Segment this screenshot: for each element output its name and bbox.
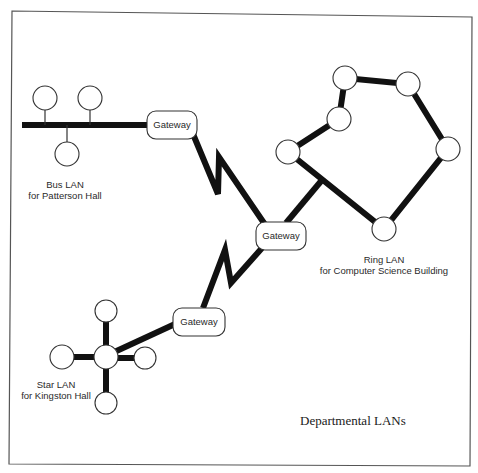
star-lan-label: Star LAN <box>37 379 76 390</box>
gateway-star-label: Gateway <box>180 316 218 327</box>
bus-node-1[interactable] <box>33 86 57 110</box>
ring-node-1[interactable] <box>333 66 357 90</box>
ring-node-5[interactable] <box>436 137 460 161</box>
bus-node-2[interactable] <box>78 86 102 110</box>
ring-node-6[interactable] <box>372 217 396 241</box>
star-node-bottom[interactable] <box>95 392 117 414</box>
gateway-bus-label: Gateway <box>153 119 191 130</box>
star-lan-sublabel: for Kingston Hall <box>21 390 91 401</box>
ring-node-2[interactable] <box>396 72 420 96</box>
bus-node-3[interactable] <box>55 142 79 166</box>
bus-lan-label: Bus LAN <box>46 179 84 190</box>
star-node-left[interactable] <box>50 345 74 369</box>
gateway-star[interactable]: Gateway <box>173 308 225 336</box>
gateway-bus[interactable]: Gateway <box>147 111 197 139</box>
star-hub[interactable] <box>94 345 118 369</box>
ring-lan-label: Ring LAN <box>364 254 405 265</box>
bus-lan-sublabel: for Patterson Hall <box>28 190 101 201</box>
diagram-title: Departmental LANs <box>300 413 406 428</box>
ring-node-4[interactable] <box>276 140 300 164</box>
ring-lan-sublabel: for Computer Science Building <box>320 265 448 276</box>
star-node-right[interactable] <box>134 347 156 369</box>
departmental-lans-diagram: Bus LAN for Patterson Hall Ring LAN for … <box>0 0 478 473</box>
star-node-top[interactable] <box>95 300 117 322</box>
gateway-center[interactable]: Gateway <box>256 222 306 250</box>
ring-node-3[interactable] <box>327 107 351 131</box>
gateway-center-label: Gateway <box>262 230 300 241</box>
